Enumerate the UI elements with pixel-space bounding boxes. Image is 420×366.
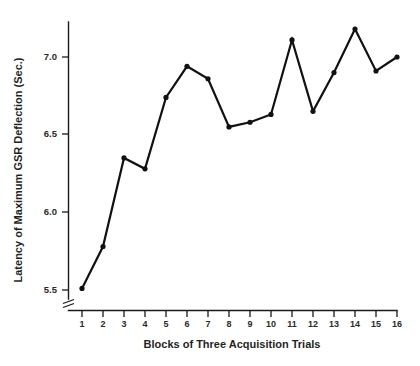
data-point	[226, 124, 231, 129]
data-point	[373, 68, 378, 73]
x-tick-label-1: 1	[79, 319, 84, 329]
y-tick-label-6-5: 6.5	[44, 128, 58, 139]
data-point	[100, 244, 105, 249]
x-tick-label-14: 14	[350, 319, 360, 329]
data-point	[310, 109, 315, 114]
y-tick-label-7-0: 7.0	[44, 51, 57, 62]
x-tick-label-13: 13	[329, 319, 339, 329]
data-point	[79, 286, 84, 291]
data-point	[289, 37, 294, 42]
y-tick-label-6-0: 6.0	[44, 206, 57, 217]
chart-page: 7.0 6.5 6.0 5.5 1 2 3 4	[0, 0, 420, 366]
x-tick-label-16: 16	[392, 319, 402, 329]
x-tick-label-7: 7	[205, 319, 210, 329]
x-tick-label-11: 11	[287, 319, 297, 329]
data-point	[331, 70, 336, 75]
data-point	[184, 64, 189, 69]
data-point	[352, 26, 357, 31]
x-tick-label-10: 10	[266, 319, 276, 329]
x-tick-label-6: 6	[184, 319, 189, 329]
data-point	[247, 120, 252, 125]
x-tick-label-4: 4	[142, 319, 147, 329]
data-point	[163, 95, 168, 100]
data-point	[142, 166, 147, 171]
x-tick-label-3: 3	[121, 319, 126, 329]
line-chart: 7.0 6.5 6.0 5.5 1 2 3 4	[0, 0, 420, 366]
x-tick-label-12: 12	[308, 319, 318, 329]
x-tick-label-5: 5	[163, 319, 168, 329]
x-tick-label-8: 8	[226, 319, 231, 329]
x-tick-label-15: 15	[371, 319, 381, 329]
data-point	[121, 155, 126, 160]
y-tick-label-5-5: 5.5	[44, 284, 58, 295]
x-axis-title: Blocks of Three Acquisition Trials	[144, 338, 321, 350]
y-axis-title: Latency of Maximum GSR Deflection (Sec.)	[12, 57, 24, 282]
x-tick-label-9: 9	[247, 319, 252, 329]
data-point	[205, 76, 210, 81]
data-point	[268, 112, 273, 117]
data-point	[394, 54, 399, 59]
x-tick-label-2: 2	[100, 319, 105, 329]
